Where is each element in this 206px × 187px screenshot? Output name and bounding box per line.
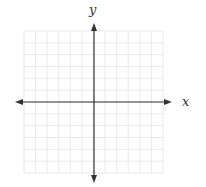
y-axis-label: y <box>88 2 97 17</box>
y-axis-up-arrow-icon <box>91 23 97 31</box>
x-axis-left-arrow-icon <box>15 99 23 105</box>
axes <box>15 23 172 183</box>
x-axis-label: x <box>182 94 190 109</box>
y-axis-down-arrow-icon <box>91 175 97 183</box>
x-axis-right-arrow-icon <box>164 99 172 105</box>
coordinate-plane: x y <box>0 0 206 187</box>
